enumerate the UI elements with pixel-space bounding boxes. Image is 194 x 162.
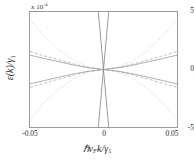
- band-structure-figure: x 10-4 5 0 -5 -0.05 0 0.05 ε(k)/γ1 ℏvFk/…: [0, 0, 194, 162]
- plot-area: [29, 11, 178, 128]
- y-axis-exponent-power: -4: [43, 2, 47, 7]
- x-axis-title: ℏvFk/γ1: [0, 143, 194, 154]
- curve-lower-parabolic-band-dotted: [30, 70, 177, 120]
- plot-curves: [30, 12, 177, 127]
- x-tick-label-left: -0.05: [14, 130, 46, 138]
- x-tick-label-right: 0.05: [156, 130, 188, 138]
- curve-upper-parabolic-band-dotted: [30, 19, 177, 69]
- x-tick-label-middle: 0: [88, 130, 120, 138]
- y-axis-title: ε(k)/γ1: [4, 28, 15, 108]
